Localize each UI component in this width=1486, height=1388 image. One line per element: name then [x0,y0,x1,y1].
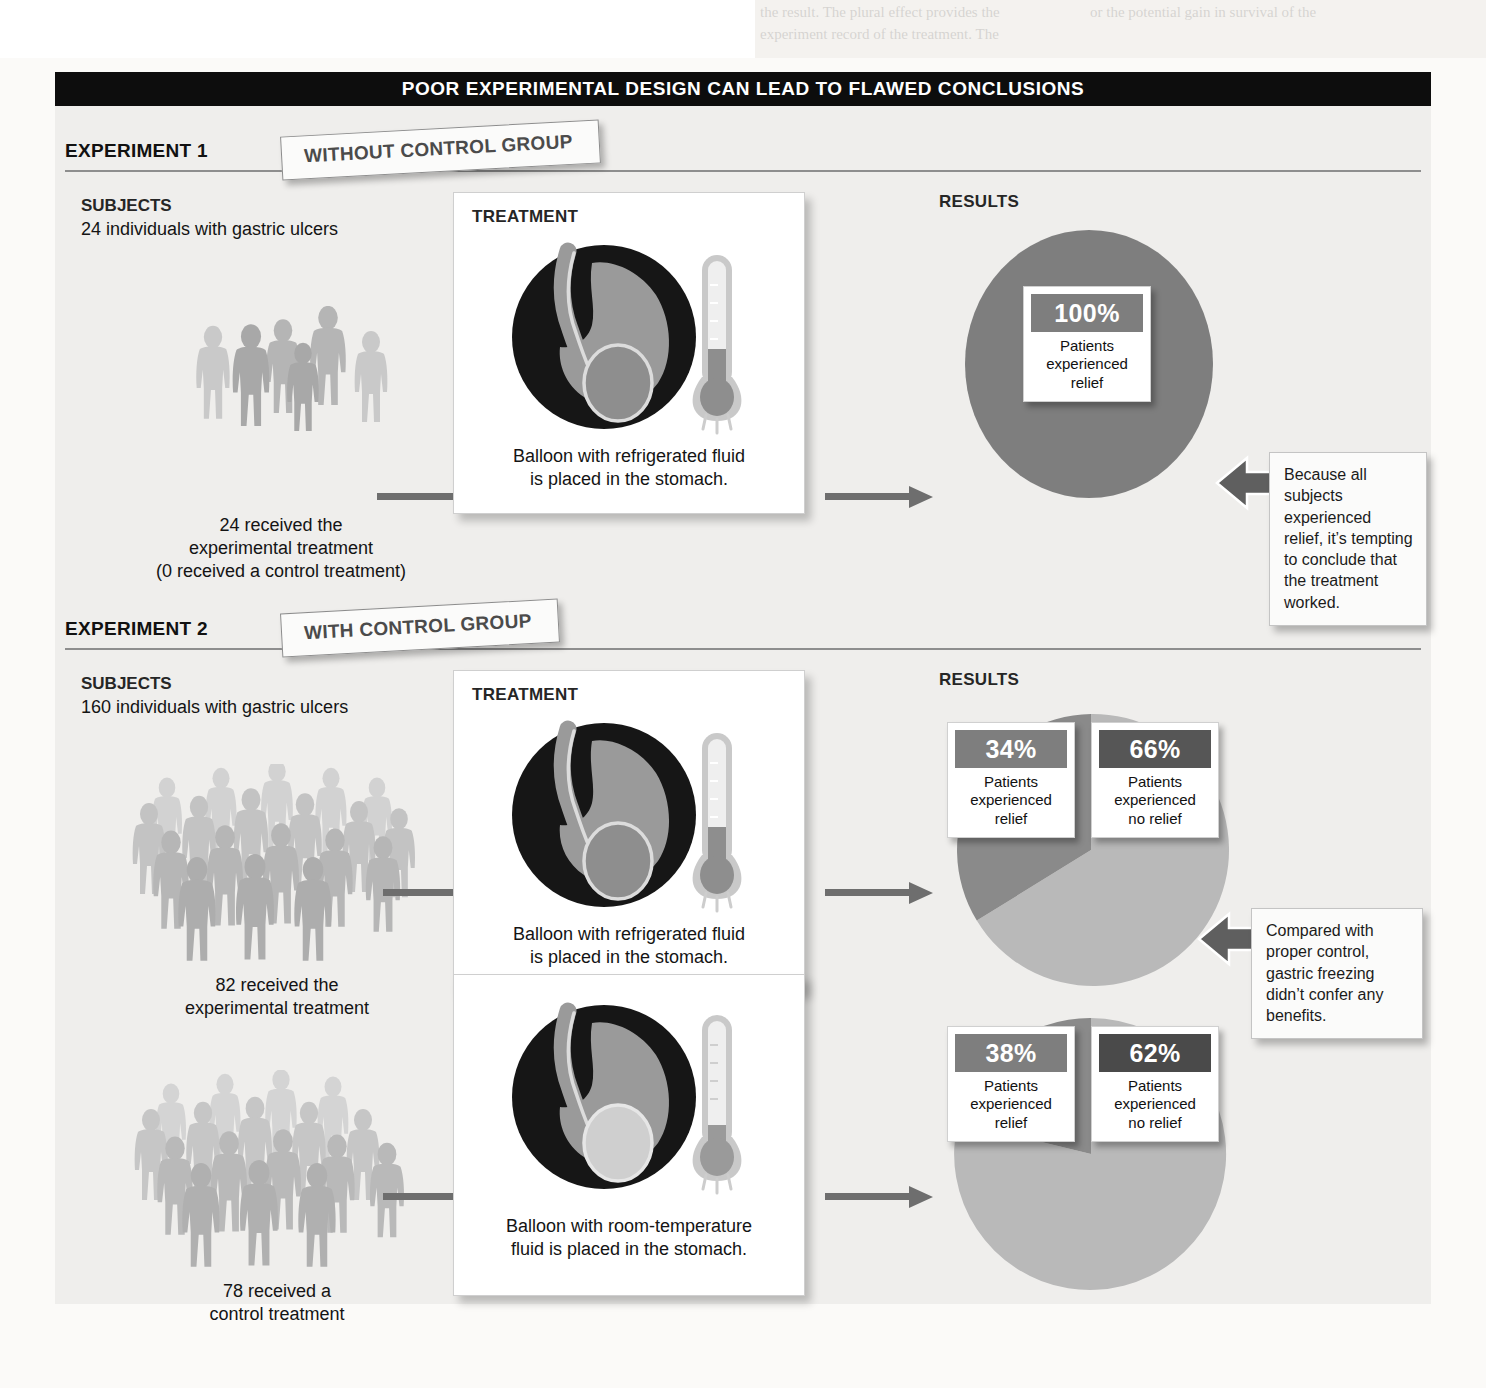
experiment-1-results: RESULTS [939,192,1019,212]
experiment-1-callout: Because all subjects experienced relief,… [1269,452,1427,626]
flow-arrow-icon [825,880,935,906]
experiment-1-header: EXPERIMENT 1 WITHOUT CONTROL GROUP [55,134,1431,178]
stat-label: Patients experienced relief [955,1077,1067,1132]
stat-box: 38% Patients experienced relief [947,1026,1075,1142]
experiment-2-results: RESULTS [939,670,1019,690]
stat-label: Patients experienced no relief [1099,773,1211,828]
results-heading: RESULTS [939,670,1019,690]
experiment-1-subjects: SUBJECTS 24 individuals with gastric ulc… [81,196,338,240]
treatment-caption-control: Balloon with room-temperature fluid is p… [454,1215,804,1262]
subjects-caption-control: 78 received a control treatment [107,1280,447,1326]
stomach-balloon-illustration [496,237,768,437]
experiment-1-label: EXPERIMENT 1 [65,140,208,162]
treatment-heading: TREATMENT [472,207,578,227]
subject-group-icon [125,764,425,974]
stomach-balloon-illustration [496,715,768,915]
stat-box: 100% Patients experienced relief [1023,286,1151,402]
stat-label: Patients experienced no relief [1099,1077,1211,1132]
experiment-2-control-card: Balloon with room-temperature fluid is p… [453,974,805,1296]
subjects-caption: 24 received the experimental treatment (… [111,514,451,583]
thermometer-icon [693,255,742,433]
treatment-caption: Balloon with refrigerated fluid is place… [454,445,804,492]
stat-percent: 38% [955,1034,1067,1072]
experiment-1-treatment-card: TREATMENT [453,192,805,514]
stat-box: 34% Patients experienced relief [947,722,1075,838]
stat-percent: 66% [1099,730,1211,768]
subject-group-icon [125,1070,425,1280]
subjects-subheading: 160 individuals with gastric ulcers [81,697,348,718]
subjects-subheading: 24 individuals with gastric ulcers [81,219,338,240]
figure-panel: POOR EXPERIMENTAL DESIGN CAN LEAD TO FLA… [55,72,1431,1304]
experiment-2-section: EXPERIMENT 2 WITH CONTROL GROUP SUBJECTS… [55,612,1431,1302]
experiment-2-callout: Compared with proper control, gastric fr… [1251,908,1423,1039]
experiment-1-section: EXPERIMENT 1 WITHOUT CONTROL GROUP SUBJE… [55,134,1431,604]
bleed-text-line: experiment record of the treatment. The [760,26,999,43]
subject-group-icon [183,306,413,496]
subjects-heading: SUBJECTS [81,674,348,694]
stat-percent: 100% [1031,294,1143,332]
experiment-2-rule [65,648,1421,650]
page-background-bleed: the result. The plural effect provides t… [0,0,1486,58]
treatment-caption-experimental: Balloon with refrigerated fluid is place… [454,923,804,970]
figure-title: POOR EXPERIMENTAL DESIGN CAN LEAD TO FLA… [402,78,1085,100]
experiment-2-subjects: SUBJECTS 160 individuals with gastric ul… [81,674,348,718]
stat-box: 66% Patients experienced no relief [1091,722,1219,838]
experiment-1-rule [65,170,1421,172]
thermometer-icon [693,1015,742,1193]
stomach-balloon-illustration [496,997,768,1197]
experiment-2-treatment-card: TREATMENT [453,670,805,992]
results-heading: RESULTS [939,192,1019,212]
stat-label: Patients experienced relief [1031,337,1143,392]
figure-title-banner: POOR EXPERIMENTAL DESIGN CAN LEAD TO FLA… [55,72,1431,106]
experiment-2-label: EXPERIMENT 2 [65,618,208,640]
stat-label: Patients experienced relief [955,773,1067,828]
stat-percent: 34% [955,730,1067,768]
experiment-2-header: EXPERIMENT 2 WITH CONTROL GROUP [55,612,1431,656]
stat-percent: 62% [1099,1034,1211,1072]
flow-arrow-icon [825,1184,935,1210]
bleed-text-line: or the potential gain in survival of the [1090,4,1316,21]
flow-arrow-icon [825,484,935,510]
subjects-caption-treatment: 82 received the experimental treatment [107,974,447,1020]
thermometer-icon [693,733,742,911]
bleed-text-line: the result. The plural effect provides t… [760,4,1000,21]
stat-box: 62% Patients experienced no relief [1091,1026,1219,1142]
subjects-heading: SUBJECTS [81,196,338,216]
treatment-heading: TREATMENT [472,685,578,705]
